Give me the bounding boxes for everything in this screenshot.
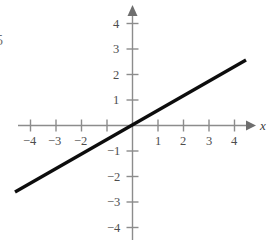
x-tick-label-1: 1 [155,135,161,148]
x-axis-arrow-icon [246,121,256,131]
y-tick-label--1: −1 [107,145,120,158]
x-tick-label--3: −3 [48,135,61,148]
x-tick-label-2: 2 [180,135,186,148]
graph-canvas [0,0,278,244]
x-tick-label-3: 3 [206,135,212,148]
y-tick-label-3: 3 [113,43,119,56]
coordinate-plane-figure: 5 x −4 −3 −2 1 2 3 4 4 3 2 1 −1 −2 −3 −4 [0,0,278,244]
y-tick-label--2: −2 [107,171,120,184]
cropped-edge-glyph: 5 [0,34,4,48]
y-tick-label-2: 2 [113,69,119,82]
y-tick-label-4: 4 [113,18,119,31]
y-tick-label-1: 1 [113,94,119,107]
y-tick-label--3: −3 [107,196,120,209]
y-tick-label--4: −4 [107,222,120,235]
x-tick-label-4: 4 [231,135,237,148]
x-tick-label--4: −4 [23,135,36,148]
x-tick-label--2: −2 [74,135,87,148]
y-axis-arrow-icon [128,5,138,16]
x-axis-label: x [260,119,266,132]
